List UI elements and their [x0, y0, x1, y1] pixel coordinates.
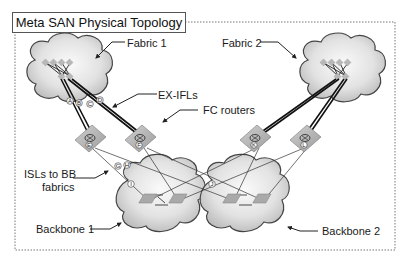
- marker-h: H: [125, 162, 129, 168]
- diagram-title: Meta SAN Physical Topology: [12, 12, 186, 33]
- label-ex-ifls: EX-IFLs: [158, 89, 198, 101]
- label-fabric-1: Fabric 1: [127, 37, 167, 49]
- label-backbone-2: Backbone 2: [322, 225, 380, 237]
- router-e-label: E: [87, 142, 91, 148]
- label-backbone-1: Backbone 1: [36, 223, 94, 235]
- router-e: E: [75, 125, 106, 152]
- marker-c: C: [88, 101, 93, 107]
- fabric-2-cloud: [300, 33, 386, 102]
- router-l: L: [290, 125, 321, 152]
- link-markers-isl: G H: [115, 162, 131, 170]
- topology-diagram: E F K L A B C D G H: [0, 0, 407, 261]
- marker-g: G: [116, 163, 121, 169]
- label-fc-routers: FC routers: [203, 104, 255, 116]
- label-isls-line-1: ISLs to BB: [24, 168, 76, 180]
- label-isls-line-2: fabrics: [42, 181, 74, 193]
- label-fabric-2: Fabric 2: [222, 37, 262, 49]
- marker-d: D: [98, 97, 103, 103]
- marker-j: J: [211, 181, 214, 187]
- marker-b: B: [77, 100, 81, 106]
- router-f-label: F: [137, 142, 141, 148]
- router-k-label: K: [252, 142, 256, 148]
- router-f: F: [125, 125, 156, 152]
- marker-a: A: [68, 98, 72, 104]
